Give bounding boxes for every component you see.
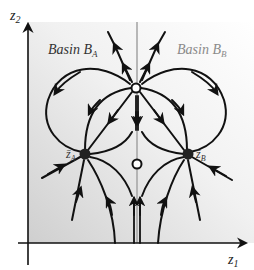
stable-node-a	[80, 149, 91, 160]
basin-b-label: Basin BB	[177, 42, 227, 59]
unstable-point	[133, 160, 142, 169]
basin-a-label: Basin BA	[48, 42, 98, 59]
saddle-point	[132, 84, 141, 93]
y-axis-label: z2	[9, 8, 20, 25]
x-axis-label: z1	[227, 252, 238, 269]
phase-portrait-diagram: z2 z1 Basin BA Basin BB z̄A z̄B	[0, 0, 254, 270]
stable-node-b	[183, 149, 194, 160]
